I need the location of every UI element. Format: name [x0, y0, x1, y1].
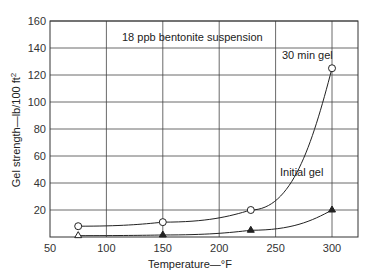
marker-open-circle — [75, 223, 82, 230]
series-line — [78, 210, 332, 236]
x-tick-label: 200 — [210, 242, 228, 254]
y-tick-label: 60 — [34, 150, 46, 162]
series-line — [78, 68, 332, 226]
chart-title: 18 ppb bentonite suspension — [122, 31, 263, 43]
data-series — [75, 65, 336, 238]
x-tick-label: 100 — [97, 242, 115, 254]
chart-canvas: 20406080100120140160 50100150200250300 1… — [0, 0, 370, 277]
x-axis-label: Temperature—°F — [148, 258, 232, 270]
series-label-30-min-gel: 30 min gel — [282, 49, 333, 61]
x-tick-label: 300 — [323, 242, 341, 254]
y-tick-label: 100 — [28, 96, 46, 108]
marker-open-circle — [329, 65, 336, 72]
y-tick-label: 160 — [28, 15, 46, 27]
x-axis-ticks: 50100150200250300 — [44, 242, 341, 254]
marker-filled-triangle — [247, 226, 254, 232]
y-axis-label-main: Gel strength—lb/100 ft — [10, 77, 22, 187]
marker-filled-triangle — [159, 231, 166, 237]
marker-filled-triangle — [329, 206, 336, 212]
y-tick-label: 80 — [34, 123, 46, 135]
y-tick-label: 20 — [34, 204, 46, 216]
marker-open-circle — [247, 207, 254, 214]
svg-text:Gel strength—lb/100 ft2: Gel strength—lb/100 ft2 — [9, 72, 22, 187]
series-label-initial-gel: Initial gel — [280, 166, 323, 178]
y-tick-label: 140 — [28, 42, 46, 54]
y-tick-label: 120 — [28, 69, 46, 81]
y-tick-label: 40 — [34, 177, 46, 189]
y-axis-ticks: 20406080100120140160 — [28, 15, 46, 216]
x-tick-label: 50 — [44, 242, 56, 254]
marker-open-triangle — [75, 232, 82, 238]
x-tick-label: 250 — [266, 242, 284, 254]
marker-open-circle — [159, 219, 166, 226]
x-tick-label: 150 — [154, 242, 172, 254]
y-axis-label: Gel strength—lb/100 ft2 — [9, 72, 22, 187]
y-axis-label-superscript: 2 — [9, 72, 18, 77]
